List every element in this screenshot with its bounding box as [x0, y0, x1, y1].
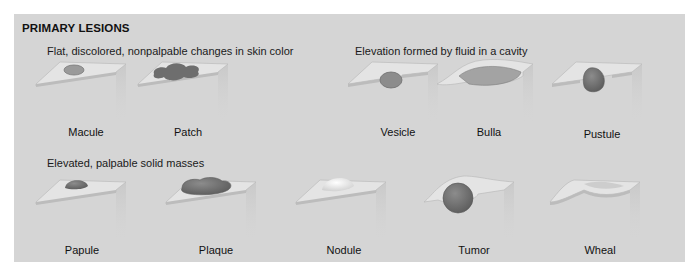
label-wheal: Wheal [540, 244, 660, 256]
tumor-illustration [418, 172, 538, 252]
figure-title: PRIMARY LESIONS [22, 22, 130, 34]
plaque-illustration [160, 172, 280, 252]
nodule-illustration [290, 172, 410, 252]
wheal-illustration [544, 172, 664, 252]
pustule-illustration [546, 54, 666, 134]
lesion-plaque: Plaque [160, 172, 280, 262]
lesion-pustule: Pustule [546, 54, 666, 144]
label-bulla: Bulla [429, 126, 549, 138]
label-pustule: Pustule [542, 128, 662, 140]
label-plaque: Plaque [156, 244, 276, 256]
label-papule: Papule [22, 244, 142, 256]
lesion-tumor: Tumor [418, 172, 538, 262]
bulla-illustration [433, 54, 553, 134]
label-tumor: Tumor [414, 244, 534, 256]
patch-illustration [132, 54, 252, 134]
label-nodule: Nodule [284, 244, 404, 256]
label-patch: Patch [128, 126, 248, 138]
lesion-bulla: Bulla [433, 54, 553, 144]
lesion-papule: Papule [30, 172, 150, 262]
lesion-patch: Patch [132, 54, 252, 144]
lesion-nodule: Nodule [290, 172, 410, 262]
group-heading-solid: Elevated, palpable solid masses [47, 157, 204, 169]
lesion-wheal: Wheal [544, 172, 664, 262]
primary-lesions-panel: PRIMARY LESIONS Flat, discolored, nonpal… [14, 14, 685, 262]
papule-illustration [30, 172, 150, 252]
